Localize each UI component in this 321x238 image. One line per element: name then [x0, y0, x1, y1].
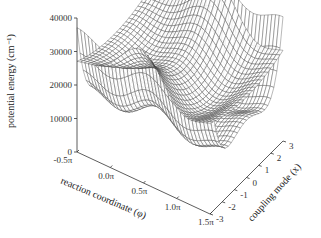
- y-tick-label: 1: [265, 165, 270, 175]
- z-ticks: 010000200003000040000: [50, 13, 78, 157]
- x-tick-label: 0.0π: [98, 171, 114, 181]
- y-tick-label: -1: [240, 190, 248, 200]
- x-tick-label: -0.5π: [54, 155, 73, 165]
- z-axis-label: potential energy (cm⁻¹): [5, 34, 17, 128]
- surface-plot: 010000200003000040000 -0.5π0.0π0.5π1.0π1…: [0, 0, 321, 238]
- z-tick-label: 20000: [50, 80, 73, 90]
- y-tick-label: 2: [277, 153, 282, 163]
- z-tick-label: 10000: [50, 114, 73, 124]
- y-tick-mark: [259, 165, 262, 166]
- x-tick-mark: [110, 166, 112, 168]
- y-tick-mark: [247, 178, 250, 179]
- y-tick-mark: [222, 202, 225, 203]
- z-tick-label: 30000: [50, 47, 73, 57]
- y-tick-label: -2: [228, 202, 236, 212]
- x-tick-label: 0.5π: [132, 186, 148, 196]
- x-axis-label: reaction coordinate (φ): [59, 175, 148, 222]
- z-tick-label: 40000: [50, 13, 73, 23]
- y-tick-mark: [283, 141, 286, 142]
- y-tick-label: 3: [289, 141, 294, 151]
- y-tick-mark: [210, 214, 213, 215]
- x-tick-label: 1.5π: [198, 217, 214, 227]
- y-axis-label: coupling mode (x): [245, 161, 303, 224]
- x-tick-mark: [144, 181, 146, 183]
- x-tick-label: 1.0π: [165, 202, 181, 212]
- y-tick-mark: [271, 153, 274, 154]
- y-tick-mark: [234, 190, 237, 191]
- y-tick-label: -3: [216, 214, 224, 224]
- x-tick-mark: [177, 197, 179, 199]
- y-tick-label: 0: [253, 178, 258, 188]
- mesh-surfaces: [77, 0, 283, 148]
